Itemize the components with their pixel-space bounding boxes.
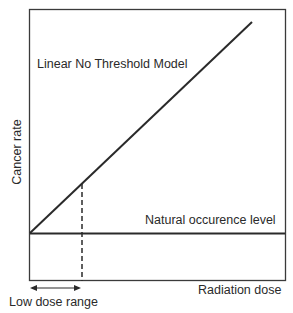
natural-level-label: Natural occurence level: [145, 213, 276, 227]
x-axis-label: Radiation dose: [198, 283, 281, 297]
lnt-line: [30, 22, 252, 233]
plot-frame: [30, 10, 286, 281]
y-axis-label: Cancer rate: [10, 112, 24, 192]
low-dose-label: Low dose range: [9, 295, 98, 309]
low-dose-arrow-icon: [30, 285, 81, 291]
diagram-canvas: [0, 0, 293, 313]
lnt-label: Linear No Threshold Model: [37, 57, 188, 71]
